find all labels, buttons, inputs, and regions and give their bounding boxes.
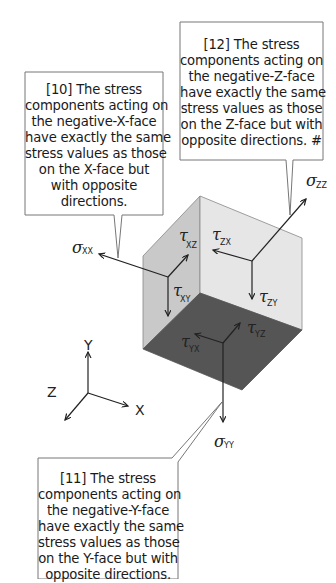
label-sigma-yy: σ YY (214, 432, 234, 451)
callout-line: opposite directions. # (180, 133, 323, 149)
svg-text:YX: YX (188, 345, 200, 354)
callout-negative-x-text: [10] The stress components acting on the… (25, 82, 163, 210)
callout-line: [10] The stress (25, 82, 163, 98)
label-sigma-zz: σ ZZ (306, 171, 327, 190)
axis-label-x: X (135, 402, 145, 418)
callout-negative-z-text: [12] The stress components acting on the… (180, 37, 323, 149)
svg-text:XZ: XZ (186, 241, 197, 250)
callout-line: with opposite (25, 178, 163, 194)
callout-line: stress values as those (38, 535, 178, 551)
svg-text:ZZ: ZZ (316, 181, 327, 190)
axis-label-y: Y (83, 337, 93, 353)
svg-text:YY: YY (223, 441, 234, 450)
callout-line: the negative-Z-face (180, 69, 323, 85)
callout-line: on the Y-face but with (38, 551, 178, 567)
callout-line: components acting on (25, 98, 163, 114)
callout-line: directions. (25, 194, 163, 210)
callout-line: [12] The stress (180, 37, 323, 53)
callout-line: [11] The stress (38, 471, 178, 487)
svg-text:XY: XY (180, 295, 190, 304)
svg-text:ZY: ZY (267, 299, 277, 308)
coordinate-axes (65, 352, 128, 420)
callout-line: stress values as those (25, 146, 163, 162)
callout-line: have exactly the same (25, 130, 163, 146)
callout-line: stress values as those (180, 101, 323, 117)
callout-negative-y-text: [11] The stress components acting on the… (38, 471, 178, 583)
axis-label-z: Z (47, 384, 57, 400)
callout-line: the negative-X-face (25, 114, 163, 130)
callout-line: on the X-face but (25, 162, 163, 178)
callout-line: the negative-Y-face (38, 503, 178, 519)
callout-line: on the Z-face but with (180, 117, 323, 133)
label-sigma-xx: σ XX (72, 238, 93, 257)
svg-text:XX: XX (82, 247, 93, 256)
callout-line: components acting on (38, 487, 178, 503)
svg-text:YZ: YZ (254, 330, 266, 339)
callout-line: have exactly the same (38, 519, 178, 535)
callout-line: opposite directions. (38, 567, 178, 583)
callout-line: have exactly the same (180, 85, 323, 101)
svg-text:ZX: ZX (220, 238, 231, 247)
callout-line: components acting on (180, 53, 323, 69)
